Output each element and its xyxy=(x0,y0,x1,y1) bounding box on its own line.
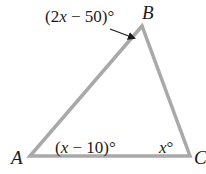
triangle-figure: B A C (2x − 50)° (x − 10)° x° xyxy=(0,0,206,174)
triangle-abc xyxy=(30,26,190,156)
angle-label-b: (2x − 50)° xyxy=(45,7,114,26)
vertex-label-b: B xyxy=(142,2,154,23)
angle-b-pointer-arrow xyxy=(110,29,134,38)
angle-label-c: x° xyxy=(158,138,173,157)
vertex-label-a: A xyxy=(9,147,23,168)
vertex-label-c: C xyxy=(194,147,206,168)
triangle-diagram: B A C (2x − 50)° (x − 10)° x° xyxy=(0,0,206,174)
angle-label-a: (x − 10)° xyxy=(55,138,116,157)
